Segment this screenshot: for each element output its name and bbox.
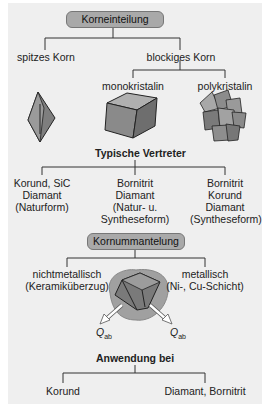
monokristalin-cube-shape xyxy=(105,93,157,138)
q-sub-left: ab xyxy=(104,333,112,340)
rep-3-line-3: Diamant xyxy=(190,201,260,213)
rep-2-line-2: Diamant xyxy=(100,189,170,201)
rep-1-line-2: Diamant xyxy=(12,189,72,201)
rep-2-line-1: Bornitrit xyxy=(100,177,170,189)
branch-metallisch: metallisch xyxy=(162,268,248,280)
rep-3-line-4: (Syntheseform) xyxy=(190,213,260,225)
branch-blockiges-korn: blockiges Korn xyxy=(145,51,217,63)
branch-metallisch-detail: (Ni-, Cu-Schicht) xyxy=(162,280,248,292)
sub-polykristalin: polykristalin xyxy=(194,80,256,92)
rep-2-line-4: Syntheseform) xyxy=(100,213,170,225)
application-diamant-bornitrit: Diamant, Bornitrit xyxy=(160,385,250,397)
header-korneinteilung: Korneinteilung xyxy=(66,11,164,28)
rep-3-line-2: Korund xyxy=(190,189,260,201)
header-kornummantelung: Kornummantelung xyxy=(87,233,185,250)
sub-monokristalin: monokristalin xyxy=(100,80,166,92)
rep-2-line-3: (Natur- u. xyxy=(100,201,170,213)
rep-1-line-1: Korund, SiC xyxy=(12,177,72,189)
branch-spitzes-korn: spitzes Korn xyxy=(14,51,78,63)
label-q-ab-left: Qab xyxy=(92,326,116,343)
polykristalin-cluster-shape xyxy=(200,90,246,141)
branch-nichtmetallisch-detail: (Keramiküberzug) xyxy=(24,280,110,292)
q-symbol-left: Q xyxy=(96,326,104,338)
q-symbol-right: Q xyxy=(170,326,178,338)
q-sub-right: ab xyxy=(178,333,186,340)
spitzes-korn-shape xyxy=(28,92,55,142)
representatives-title: Typische Vertreter xyxy=(95,147,175,159)
rep-3-line-1: Bornitrit xyxy=(190,177,260,189)
rep-1-line-3: (Naturform) xyxy=(12,201,72,213)
branch-nichtmetallisch: nichtmetallisch xyxy=(24,268,110,280)
application-korund: Korund xyxy=(40,385,86,397)
application-title: Anwendung bei xyxy=(95,352,175,364)
label-q-ab-right: Qab xyxy=(166,326,190,343)
